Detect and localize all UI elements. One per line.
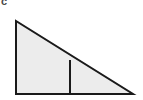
geometry-figure-canvas <box>0 0 143 100</box>
figure-part-label-c: c <box>1 0 7 7</box>
